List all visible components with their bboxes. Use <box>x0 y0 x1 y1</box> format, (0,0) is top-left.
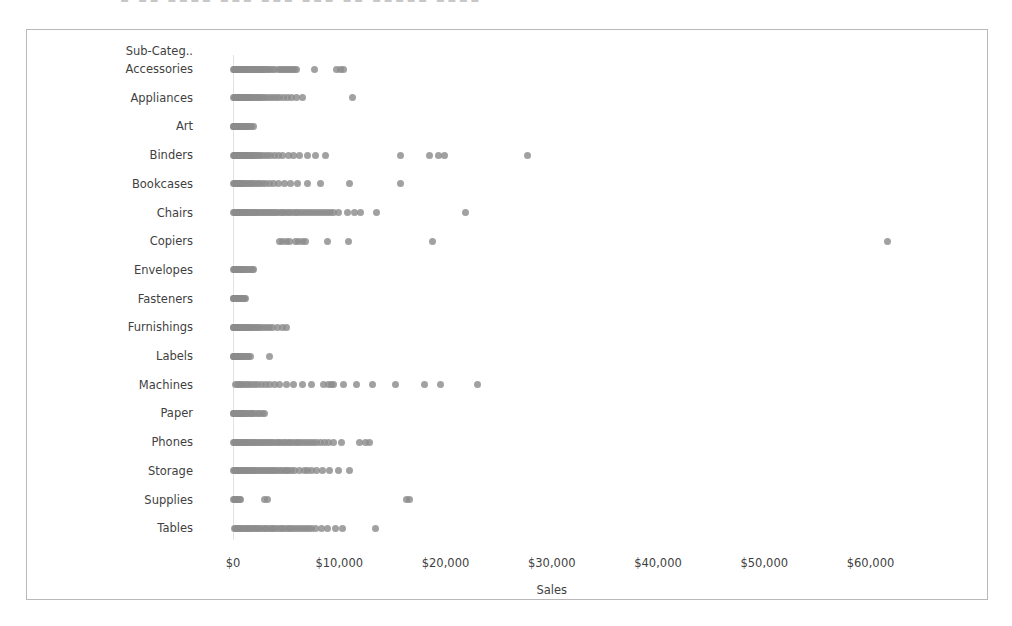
category-label-phones: Phones <box>13 436 193 448</box>
data-point <box>326 467 333 474</box>
data-point <box>250 123 257 130</box>
data-point <box>346 180 353 187</box>
data-point <box>884 238 891 245</box>
x-tick-label: $0 <box>188 556 278 570</box>
data-point <box>335 467 342 474</box>
category-label-tables: Tables <box>13 522 193 534</box>
category-label-fasteners: Fasteners <box>13 293 193 305</box>
data-point <box>237 496 244 503</box>
category-label-envelopes: Envelopes <box>13 264 193 276</box>
data-point <box>304 180 311 187</box>
data-point <box>429 238 436 245</box>
category-label-machines: Machines <box>13 379 193 391</box>
data-point <box>330 439 337 446</box>
data-point <box>335 209 342 216</box>
data-point <box>264 496 271 503</box>
category-label-furnishings: Furnishings <box>13 321 193 333</box>
category-label-labels: Labels <box>13 350 193 362</box>
data-point <box>312 152 319 159</box>
data-point <box>406 496 413 503</box>
data-point <box>346 467 353 474</box>
dot-plot-area: Sub-Categ..AccessoriesAppliancesArtBinde… <box>27 30 989 601</box>
data-point <box>299 381 306 388</box>
data-point <box>304 152 311 159</box>
data-point <box>353 381 360 388</box>
data-point <box>426 152 433 159</box>
category-label-bookcases: Bookcases <box>13 178 193 190</box>
data-point <box>293 66 300 73</box>
category-label-appliances: Appliances <box>13 92 193 104</box>
category-label-binders: Binders <box>13 149 193 161</box>
x-tick-label: $20,000 <box>401 556 491 570</box>
data-point <box>462 209 469 216</box>
data-point <box>322 152 329 159</box>
data-point <box>294 180 301 187</box>
data-point <box>340 66 347 73</box>
data-point <box>421 381 428 388</box>
data-point <box>340 381 347 388</box>
data-point <box>397 180 404 187</box>
x-tick-label: $10,000 <box>294 556 384 570</box>
data-point <box>339 525 346 532</box>
x-tick-label: $60,000 <box>826 556 916 570</box>
data-point <box>369 381 376 388</box>
data-point <box>373 209 380 216</box>
data-point <box>283 381 290 388</box>
data-point <box>437 381 444 388</box>
chart-frame: Sub-Categ..AccessoriesAppliancesArtBinde… <box>26 29 988 600</box>
category-label-copiers: Copiers <box>13 235 193 247</box>
x-tick-label: $50,000 <box>719 556 809 570</box>
data-point <box>330 381 337 388</box>
data-point <box>332 525 339 532</box>
data-point <box>397 152 404 159</box>
data-point <box>338 439 345 446</box>
data-point <box>242 295 249 302</box>
data-point <box>311 66 318 73</box>
data-point <box>324 525 331 532</box>
data-point <box>357 209 364 216</box>
data-point <box>283 324 290 331</box>
data-point <box>266 353 273 360</box>
top-cropped-text: ▪ ▪▪ ▪▪▪▪ ▪▪▪ ▪▪▪ ▪▪▪ ▪▪ ▪▪▪▪▪ ▪▪▪▪ <box>120 0 482 5</box>
data-point <box>287 180 294 187</box>
category-label-storage: Storage <box>13 465 193 477</box>
category-label-accessories: Accessories <box>13 63 193 75</box>
x-axis-title: Sales <box>452 583 652 597</box>
category-label-art: Art <box>13 120 193 132</box>
data-point <box>319 467 326 474</box>
data-point <box>317 180 324 187</box>
data-point <box>441 152 448 159</box>
data-point <box>349 94 356 101</box>
x-tick-label: $40,000 <box>613 556 703 570</box>
data-point <box>474 381 481 388</box>
data-point <box>250 266 257 273</box>
data-point <box>372 525 379 532</box>
data-point <box>296 152 303 159</box>
data-point <box>247 353 254 360</box>
data-point <box>302 238 309 245</box>
data-point <box>366 439 373 446</box>
category-label-paper: Paper <box>13 407 193 419</box>
data-point <box>261 410 268 417</box>
data-point <box>392 381 399 388</box>
data-point <box>324 238 331 245</box>
category-label-chairs: Chairs <box>13 207 193 219</box>
y-axis-header-label: Sub-Categ.. <box>13 45 193 57</box>
data-point <box>345 238 352 245</box>
x-tick-label: $30,000 <box>507 556 597 570</box>
top-cropped-text-strip: ▪ ▪▪ ▪▪▪▪ ▪▪▪ ▪▪▪ ▪▪▪ ▪▪ ▪▪▪▪▪ ▪▪▪▪ <box>0 0 1012 14</box>
data-point <box>290 381 297 388</box>
data-point <box>299 94 306 101</box>
category-label-supplies: Supplies <box>13 494 193 506</box>
data-point <box>308 381 315 388</box>
data-point <box>524 152 531 159</box>
